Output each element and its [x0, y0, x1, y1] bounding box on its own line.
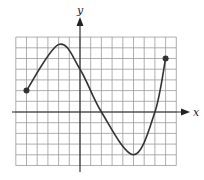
function-curve [27, 44, 166, 155]
x-axis-label: x [193, 106, 200, 119]
function-graph: x y [0, 0, 204, 180]
left-endpoint [24, 88, 30, 94]
right-endpoint [163, 56, 169, 62]
x-axis-arrow-icon [181, 109, 190, 116]
y-axis-arrow-icon [77, 17, 84, 26]
y-axis-label: y [76, 4, 84, 17]
